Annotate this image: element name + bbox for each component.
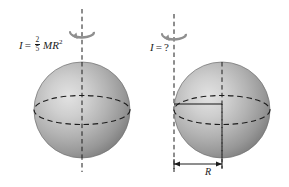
formula-tangent-axis: I=? <box>150 42 169 53</box>
physics-figure: I=25MR2 I=? R <box>0 0 289 187</box>
formula-central-axis: I=25MR2 <box>19 36 63 52</box>
equals-sign-left: = <box>25 39 31 51</box>
equals-sign-right: = <box>156 41 162 53</box>
dimension-line-R <box>174 159 222 169</box>
mass-radius-term: MR <box>43 39 59 51</box>
right-figure-group <box>162 14 270 172</box>
fraction-denominator: 5 <box>35 44 41 53</box>
left-figure-group <box>34 9 130 172</box>
inertia-symbol-right: I <box>150 41 154 53</box>
radius-label: R <box>205 166 211 177</box>
fraction-numerator: 2 <box>35 36 41 44</box>
inertia-symbol-left: I <box>19 39 23 51</box>
unknown-value: ? <box>164 41 169 53</box>
radius-exponent: 2 <box>59 38 63 46</box>
fraction-two-fifths: 25 <box>35 36 41 52</box>
figure-canvas <box>0 0 289 187</box>
